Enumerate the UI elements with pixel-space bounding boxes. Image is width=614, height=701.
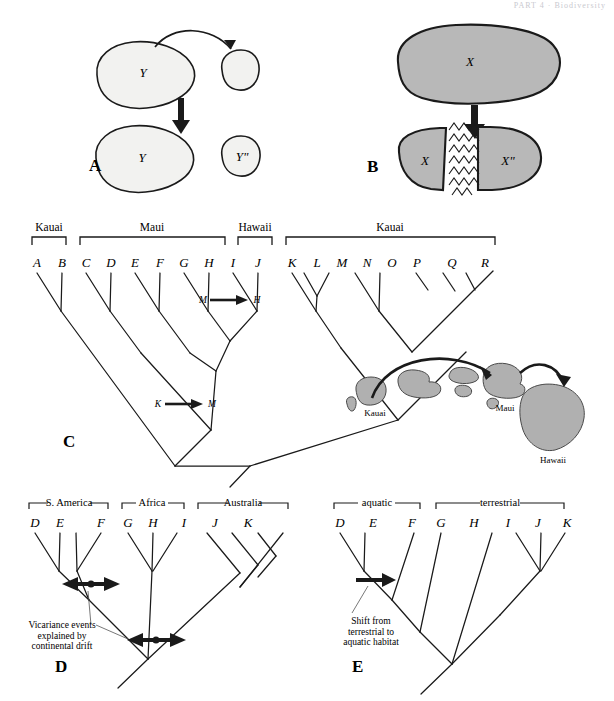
panel-e-cladogram: [340, 533, 565, 694]
panel-e-shift-marker: [356, 573, 396, 587]
panel-e-taxon-D: D: [335, 515, 344, 531]
panel-e-taxon-I: I: [506, 515, 510, 531]
panel-e-taxon-F: F: [408, 515, 416, 531]
panel-e-taxon-J: J: [535, 515, 541, 531]
panel-e-taxon-E: E: [369, 515, 377, 531]
panel-e-callout-leader: [352, 586, 368, 613]
panel-e-taxon-G: G: [436, 515, 445, 531]
panel-e-group-label-1: terrestrial: [480, 497, 520, 508]
panel-e-graphics: [0, 0, 614, 701]
panel-e-annotation: Shift from terrestrial to aquatic habita…: [343, 616, 399, 648]
panel-e-taxon-H: H: [469, 515, 478, 531]
figure-biogeography: PART 4 · Biodiversity Y Y Y" A: [0, 0, 614, 701]
panel-letter-e: E: [352, 657, 363, 677]
panel-e-taxon-K: K: [563, 515, 572, 531]
panel-e-group-label-0: aquatic: [362, 497, 392, 508]
